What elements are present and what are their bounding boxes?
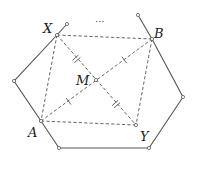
- segment-XB: [57, 35, 152, 39]
- point-left-vertex: [12, 79, 15, 82]
- single-tick-MB: [122, 57, 127, 64]
- point-A: [39, 119, 42, 122]
- point-X: [55, 33, 58, 36]
- segment-XA: [41, 35, 57, 121]
- double-tick-MY: [112, 100, 120, 108]
- point-bottom-left-vertex: [57, 146, 60, 149]
- label-X: X: [42, 21, 53, 36]
- double-tick-XM: [72, 55, 80, 63]
- label-B: B: [153, 26, 164, 41]
- point-Y: [134, 123, 137, 126]
- segment-AY: [41, 121, 136, 125]
- point-bottom-right-vertex: [147, 146, 150, 149]
- point-M: [94, 78, 97, 81]
- point-right-vertex: [181, 95, 184, 98]
- ellipsis-dots: ...: [95, 13, 105, 24]
- geometry-diagram: X B M A Y ...: [0, 0, 199, 169]
- label-Y: Y: [140, 129, 150, 144]
- point-top-right-end: [136, 13, 139, 16]
- label-M: M: [75, 73, 90, 88]
- point-top-left-end: [65, 22, 68, 25]
- label-A: A: [27, 125, 37, 140]
- segment-BY: [136, 39, 152, 125]
